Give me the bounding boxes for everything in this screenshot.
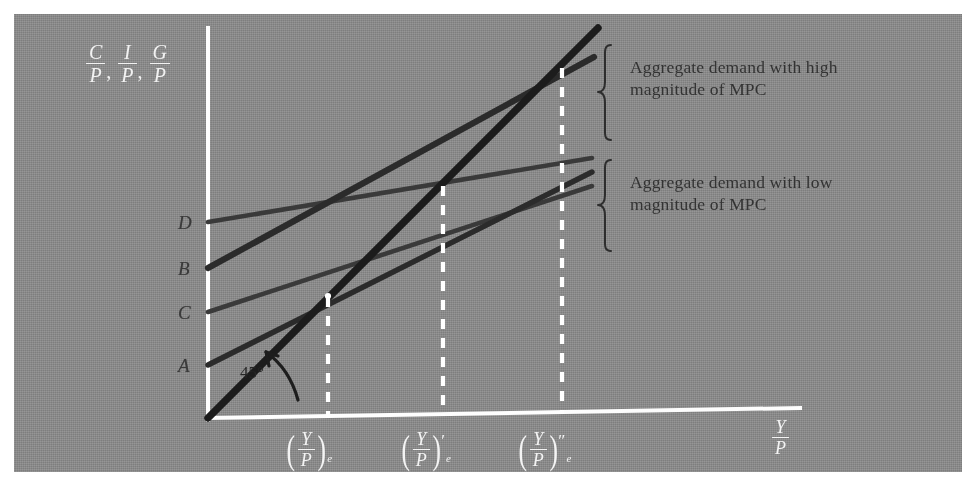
- curve-from-D: [208, 158, 592, 222]
- forty-five-degree-label: 45°: [240, 362, 264, 383]
- curve-from-C: [208, 186, 592, 312]
- brace-high-mpc: [598, 45, 611, 140]
- intercept-label-C: C: [178, 303, 191, 322]
- x-tick-label-2: (YP)′e: [399, 430, 452, 469]
- intercept-label-B: B: [178, 259, 190, 278]
- annotation-low-mpc-line1: Aggregate demand with low: [630, 172, 833, 194]
- x-tick-label-1: (YP)e: [284, 430, 333, 469]
- brace-low-mpc: [598, 160, 611, 251]
- y-axis-title-fraction-G: G P: [150, 42, 170, 85]
- x-tick-3-paren-close: ): [549, 431, 557, 469]
- intercept-label-A: A: [178, 356, 190, 375]
- x-tick-3-subscript: e: [566, 453, 571, 464]
- annotation-low-mpc: Aggregate demand with low magnitude of M…: [630, 172, 833, 216]
- y-axis-title: C P , I P , G P: [86, 42, 170, 85]
- annotation-low-mpc-line2: magnitude of MPC: [630, 194, 833, 216]
- annotation-high-mpc-line1: Aggregate demand with high: [630, 57, 838, 79]
- y-axis-title-fraction-I: I P: [118, 42, 136, 85]
- x-tick-1-paren-close: ): [317, 431, 325, 469]
- x-tick-1-subscript: e: [327, 453, 332, 464]
- y-axis-title-separator-2: ,: [137, 61, 145, 81]
- x-tick-2-paren-open: (: [402, 431, 410, 469]
- x-tick-2-subscript: e: [446, 453, 451, 464]
- x-axis-title-fraction: Y P: [772, 418, 789, 457]
- x-axis: [208, 408, 800, 418]
- x-axis-title: Y P: [772, 418, 789, 457]
- annotation-high-mpc-line2: magnitude of MPC: [630, 79, 838, 101]
- x-tick-1-fraction: YP: [298, 430, 315, 469]
- y-axis-title-separator-1: ,: [105, 61, 113, 81]
- x-tick-3-prime: ″: [558, 432, 565, 449]
- intercept-label-D: D: [178, 213, 192, 232]
- x-tick-2-fraction: YP: [413, 430, 430, 469]
- x-tick-2-paren-close: ): [432, 431, 440, 469]
- y-axis-title-fraction-C: C P: [86, 42, 105, 85]
- x-tick-3-paren-open: (: [519, 431, 527, 469]
- curve-from-A: [208, 172, 592, 365]
- x-tick-1-paren-open: (: [287, 431, 295, 469]
- x-tick-label-3: (YP)″e: [516, 430, 572, 469]
- equilibrium-point-1: [325, 293, 331, 299]
- figure-root: C P , I P , G P D B C A 45° (YP)e (YP)′e…: [0, 0, 978, 487]
- x-tick-3-fraction: YP: [530, 430, 547, 469]
- annotation-high-mpc: Aggregate demand with high magnitude of …: [630, 57, 838, 101]
- x-tick-2-prime: ′: [441, 432, 445, 449]
